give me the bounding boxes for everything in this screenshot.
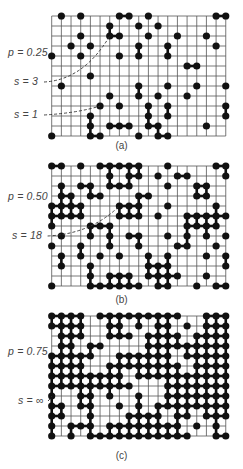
p-label-c: p = 0.75 [8, 345, 48, 357]
caption-c: (c) [0, 450, 243, 461]
panel-c: p = 0.75 s = ∞ (c) [0, 0, 243, 469]
s-label-c-inf: s = ∞ [18, 394, 44, 406]
